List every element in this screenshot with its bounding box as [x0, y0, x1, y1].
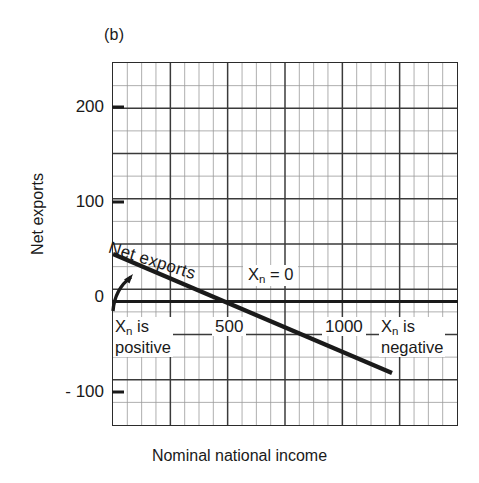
xn-positive-sub: n [126, 325, 132, 337]
annotation-xn-equals-zero: Xn = 0 [243, 265, 298, 286]
y-axis-title: Net exports [29, 144, 47, 284]
x-tick-label-1000: 1000 [322, 317, 366, 336]
x-axis-title: Nominal national income [0, 447, 479, 465]
annotation-xn-negative-line1: Xn is [381, 317, 443, 338]
x-tick-label-500: 500 [212, 317, 246, 336]
grid-lines [113, 63, 457, 425]
figure-panel-b: (b) [0, 0, 479, 483]
xn-negative-rest: is [398, 317, 415, 335]
xn-zero-rest: = 0 [265, 265, 293, 283]
xn-zero-x: X [248, 265, 259, 283]
xn-zero-sub: n [259, 273, 265, 285]
xn-negative-x: X [381, 317, 392, 335]
y-tick-label-minus-100: - 100 [24, 382, 104, 402]
plot-area [112, 62, 458, 426]
xn-negative-sub: n [392, 325, 398, 337]
xn-positive-rest: is [132, 317, 149, 335]
annotation-xn-positive: Xn ispositive [113, 317, 173, 357]
annotation-xn-negative: Xn isnegative [379, 317, 445, 357]
y-tick-label-0: 0 [34, 287, 104, 307]
annotation-xn-positive-line1: Xn is [115, 317, 171, 338]
annotation-xn-positive-line2: positive [115, 338, 171, 357]
annotation-xn-negative-line2: negative [381, 338, 443, 357]
xn-positive-x: X [115, 317, 126, 335]
y-tick-label-200: 200 [34, 97, 104, 117]
panel-letter: (b) [104, 26, 124, 44]
